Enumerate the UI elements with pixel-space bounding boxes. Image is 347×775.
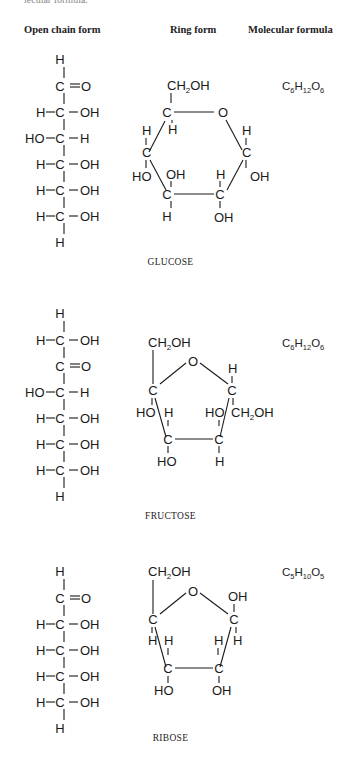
svg-text:H: H xyxy=(55,306,64,321)
fructose-ring-structure: CH2OH O H C C HO H HO CH2OH C C HO H xyxy=(0,330,347,500)
svg-text:C: C xyxy=(163,432,172,447)
svg-text:H: H xyxy=(242,123,251,138)
svg-text:HO: HO xyxy=(136,405,156,420)
svg-text:H: H xyxy=(214,633,223,648)
column-header-ring-form: Ring form xyxy=(170,24,216,35)
svg-text:HO: HO xyxy=(132,169,152,184)
svg-text:H: H xyxy=(162,209,171,224)
svg-text:OH: OH xyxy=(166,167,186,182)
ribose-molecular-formula: C5H10O5 xyxy=(282,566,324,581)
svg-text:HO: HO xyxy=(154,683,174,698)
svg-text:C: C xyxy=(162,187,171,202)
fructose-molecular-formula: C6H12O6 xyxy=(282,337,324,352)
svg-text:H: H xyxy=(164,405,173,420)
svg-text:C: C xyxy=(215,187,224,202)
svg-text:H: H xyxy=(142,123,151,138)
svg-text:C: C xyxy=(163,661,172,676)
svg-text:C: C xyxy=(227,383,236,398)
svg-text:OH: OH xyxy=(228,589,248,604)
svg-text:O: O xyxy=(188,584,198,599)
svg-text:HO: HO xyxy=(205,405,225,420)
svg-text:OH: OH xyxy=(214,210,234,225)
glucose-molecular-formula: C6H12O6 xyxy=(282,80,324,95)
cutoff-caption-text: lecular formula. xyxy=(24,0,88,5)
svg-text:H: H xyxy=(55,235,64,250)
svg-text:H: H xyxy=(168,122,177,137)
svg-text:CH2OH: CH2OH xyxy=(148,564,191,581)
svg-text:CH2OH: CH2OH xyxy=(148,335,191,352)
column-header-open-chain: Open chain form xyxy=(24,24,100,35)
svg-text:C: C xyxy=(142,145,151,160)
svg-text:CH2OH: CH2OH xyxy=(167,78,210,95)
fructose-caption: FRUCTOSE xyxy=(0,511,347,521)
svg-text:C: C xyxy=(148,612,157,627)
svg-text:C: C xyxy=(214,661,223,676)
svg-text:H: H xyxy=(233,633,242,648)
svg-text:C: C xyxy=(214,432,223,447)
svg-text:C: C xyxy=(148,383,157,398)
svg-text:CH2OH: CH2OH xyxy=(231,405,274,422)
svg-text:H: H xyxy=(164,633,173,648)
svg-text:H: H xyxy=(148,633,157,648)
ribose-caption: RIBOSE xyxy=(0,733,347,743)
svg-text:C: C xyxy=(229,612,238,627)
svg-text:H: H xyxy=(228,361,237,376)
svg-text:C: C xyxy=(162,105,171,120)
svg-text:C: C xyxy=(242,145,251,160)
svg-text:H: H xyxy=(215,454,224,469)
svg-text:HO: HO xyxy=(157,454,177,469)
svg-text:O: O xyxy=(188,354,198,369)
svg-text:OH: OH xyxy=(212,683,232,698)
column-header-molecular-formula: Molecular formula xyxy=(248,24,333,35)
svg-text:OH: OH xyxy=(250,169,270,184)
svg-text:O: O xyxy=(218,105,228,120)
ribose-ring-structure: CH2OH O OH C C H H H H C C HO OH xyxy=(0,560,347,740)
svg-text:H: H xyxy=(216,167,225,182)
glucose-caption: GLUCOSE xyxy=(0,257,347,267)
